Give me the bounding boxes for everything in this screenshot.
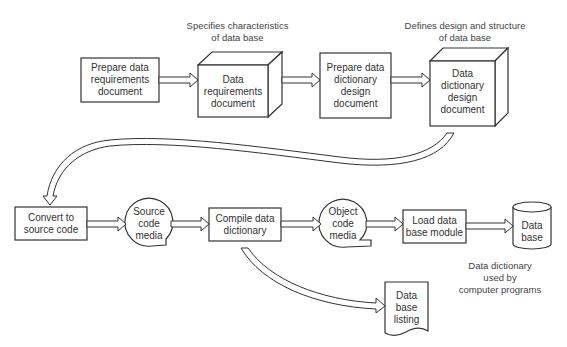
- arrow-4: [87, 217, 126, 231]
- annotation-line: Data dictionary: [450, 260, 550, 272]
- label-line: requirements: [198, 86, 268, 98]
- label-line: code: [322, 218, 364, 230]
- label-line: Object: [322, 206, 364, 218]
- label-line: dictionary: [209, 225, 281, 237]
- label-requirements-doc: Data requirements document: [198, 74, 268, 110]
- label-prepare-design: Prepare data dictionary design document: [320, 62, 391, 110]
- label-line: Data: [385, 290, 428, 302]
- arrow-to-listing: [241, 248, 385, 313]
- label-listing: Data base listing: [385, 290, 428, 326]
- arrow-6: [281, 217, 321, 231]
- arrow-loop-back: [43, 133, 454, 205]
- label-line: Source: [128, 206, 170, 218]
- arrow-8: [466, 219, 513, 233]
- label-line: media: [128, 230, 170, 242]
- annotation-design: Defines design and structure of data bas…: [395, 20, 535, 44]
- arrow-7: [366, 217, 403, 231]
- label-line: dictionary: [430, 80, 495, 92]
- arrow-1: [159, 73, 198, 87]
- label-line: source code: [15, 224, 87, 236]
- label-source-media: Source code media: [128, 206, 170, 242]
- annotation-line: of data base: [395, 32, 535, 44]
- label-line: Prepare data: [81, 62, 159, 74]
- annotation-line: Defines design and structure: [395, 20, 535, 32]
- annotation-line: Specifies characteristics: [180, 20, 295, 32]
- label-line: Convert to: [15, 212, 87, 224]
- label-line: Data: [198, 74, 268, 86]
- label-database: Data base: [513, 220, 551, 244]
- annotation-requirements: Specifies characteristics of data base: [180, 20, 295, 44]
- label-load: Load data base module: [403, 215, 466, 239]
- label-object-media: Object code media: [322, 206, 364, 242]
- label-line: requirements: [81, 74, 159, 86]
- label-line: document: [320, 98, 391, 110]
- label-line: design: [430, 92, 495, 104]
- label-line: design: [320, 86, 391, 98]
- label-line: media: [322, 230, 364, 242]
- annotation-line: of data base: [180, 32, 295, 44]
- label-line: document: [198, 98, 268, 110]
- label-line: base module: [403, 227, 466, 239]
- label-line: Load data: [403, 215, 466, 227]
- label-line: base: [385, 302, 428, 314]
- label-design-doc: Data dictionary design document: [430, 68, 495, 116]
- label-line: code: [128, 218, 170, 230]
- label-compile: Compile data dictionary: [209, 213, 281, 237]
- label-prepare-requirements: Prepare data requirements document: [81, 62, 159, 98]
- label-convert: Convert to source code: [15, 212, 87, 236]
- arrow-2: [282, 73, 320, 87]
- arrow-3: [391, 73, 430, 87]
- annotation-line: computer programs: [450, 284, 550, 296]
- label-line: Compile data: [209, 213, 281, 225]
- label-line: Prepare data: [320, 62, 391, 74]
- label-line: dictionary: [320, 74, 391, 86]
- annotation-line: used by: [450, 272, 550, 284]
- label-line: document: [81, 86, 159, 98]
- arrow-5: [171, 217, 209, 231]
- annotation-database-usage: Data dictionary used by computer program…: [450, 260, 550, 296]
- label-line: base: [513, 232, 551, 244]
- label-line: Data: [430, 68, 495, 80]
- label-line: document: [430, 104, 495, 116]
- label-line: Data: [513, 220, 551, 232]
- label-line: listing: [385, 314, 428, 326]
